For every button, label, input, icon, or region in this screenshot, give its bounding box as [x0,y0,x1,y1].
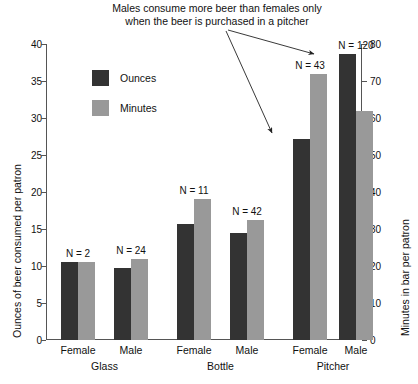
bar-ounces [339,54,356,340]
y-tick-label-right: 30 [370,224,394,235]
bar-n-label: N = 43 [280,60,340,71]
bar-n-label: N = 2 [48,248,108,259]
y-tick-label-left: 0 [18,335,42,346]
y-tick-label-right: 10 [370,298,394,309]
bar-ounces [177,224,194,340]
y-tick-label-right: 20 [370,261,394,272]
beer-consumption-bar-chart: Males consume more beer than females onl… [0,0,418,384]
y-tick-label-left: 15 [18,224,42,235]
legend-item-minutes: Minutes [92,100,157,116]
chart-annotation-text: Males consume more beer than females onl… [86,2,348,27]
y-tick-mark-right [362,81,367,82]
bar-ounces [293,139,310,340]
y-tick-label-right: 70 [370,76,394,87]
bar-minutes [194,199,211,340]
bar-ounces [230,233,247,340]
bar-n-label: N = 24 [101,245,161,256]
y-tick-label-left: 20 [18,187,42,198]
x-group-label: Bottle [176,360,266,372]
y-tick-label-left: 35 [18,76,42,87]
bar-ounces [114,268,131,340]
x-group-label: Glass [60,360,150,372]
y-tick-mark-right [362,340,367,341]
bar-minutes [78,262,95,340]
y-tick-label-left: 25 [18,150,42,161]
bar-ounces [61,262,78,340]
bar-n-label: N = 42 [217,206,277,217]
bar-n-label: N = 11 [164,185,224,196]
legend-label-ounces: Ounces [120,72,156,84]
y-tick-label-left: 10 [18,261,42,272]
legend-item-ounces: Ounces [92,70,157,86]
y-tick-label-left: 40 [18,39,42,50]
bar-minutes [356,111,373,340]
bar-minutes [310,74,327,340]
y-tick-label-left: 5 [18,298,42,309]
y-tick-mark-left [41,340,46,341]
y-tick-label-right: 60 [370,113,394,124]
legend-swatch-minutes-icon [92,100,109,116]
x-tick-label: Male [99,344,163,356]
chart-legend: Ounces Minutes [92,70,157,130]
x-tick-label: Male [215,344,279,356]
y-axis-title-right: Minutes in bar per patron [399,219,411,336]
y-tick-label-right: 50 [370,150,394,161]
y-tick-label-left: 30 [18,113,42,124]
legend-label-minutes: Minutes [120,102,157,114]
x-group-label: Pitcher [288,360,378,372]
y-tick-label-right: 40 [370,187,394,198]
bar-minutes [247,220,264,340]
x-tick-label: Male [324,344,388,356]
bar-n-label: N = 120 [326,40,386,51]
legend-swatch-ounces-icon [92,70,109,86]
bar-minutes [131,259,148,340]
